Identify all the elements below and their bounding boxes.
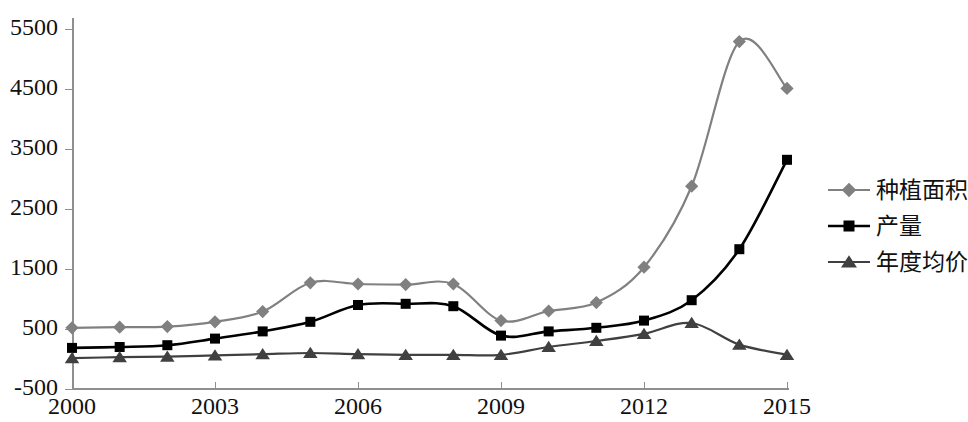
data-point-marker xyxy=(115,342,125,352)
legend-square-icon xyxy=(826,216,872,236)
data-point-marker xyxy=(113,321,126,334)
data-point-marker xyxy=(494,314,507,327)
data-point-marker xyxy=(210,334,220,344)
data-point-marker xyxy=(842,183,857,198)
series-line xyxy=(72,39,787,328)
legend-triangle-icon xyxy=(826,252,872,272)
series-line xyxy=(72,323,787,358)
series-diamond xyxy=(65,35,793,334)
legend-item-label: 种植面积 xyxy=(876,179,968,202)
data-point-marker xyxy=(542,304,555,317)
series-triangle xyxy=(65,317,795,363)
legend-item-label: 年度均价 xyxy=(876,251,968,274)
data-point-marker xyxy=(208,315,221,328)
data-point-marker xyxy=(687,295,697,305)
legend-diamond-icon xyxy=(826,180,872,200)
legend-item-2[interactable]: 年度均价 xyxy=(826,244,956,280)
data-point-marker xyxy=(732,338,747,349)
data-point-marker xyxy=(496,331,506,341)
data-point-marker xyxy=(399,278,412,291)
data-point-marker xyxy=(353,300,363,310)
chart-legend: 种植面积产量年度均价 xyxy=(826,172,956,280)
data-point-marker xyxy=(734,244,744,254)
series-line xyxy=(72,160,787,348)
data-point-marker xyxy=(256,305,269,318)
data-point-marker xyxy=(258,326,268,336)
data-point-marker xyxy=(401,299,411,309)
data-point-marker xyxy=(162,340,172,350)
data-point-marker xyxy=(591,323,601,333)
data-point-marker xyxy=(67,343,77,353)
data-point-marker xyxy=(544,326,554,336)
data-point-marker xyxy=(844,221,855,232)
legend-item-1[interactable]: 产量 xyxy=(826,208,956,244)
data-point-marker xyxy=(305,317,315,327)
data-point-marker xyxy=(448,301,458,311)
data-point-marker xyxy=(161,320,174,333)
legend-item-0[interactable]: 种植面积 xyxy=(826,172,956,208)
data-point-marker xyxy=(304,276,317,289)
data-point-marker xyxy=(782,155,792,165)
data-point-marker xyxy=(351,277,364,290)
data-point-marker xyxy=(685,180,698,193)
data-point-marker xyxy=(447,277,460,290)
data-point-marker xyxy=(590,296,603,309)
legend-item-label: 产量 xyxy=(876,215,922,238)
data-point-marker xyxy=(639,316,649,326)
data-point-marker xyxy=(65,321,78,334)
